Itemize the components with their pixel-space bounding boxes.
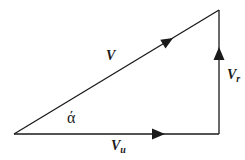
vector-vr-arrowhead	[214, 47, 225, 60]
vector-v-arrowhead	[160, 34, 175, 49]
label-vr: Vr	[227, 67, 240, 84]
label-vu: Vu	[111, 138, 126, 155]
vector-v-line	[14, 10, 219, 134]
label-alpha: ά	[67, 109, 76, 126]
label-vu-sub: u	[120, 144, 126, 155]
velocity-triangle-diagram: V ά Vu Vr	[0, 0, 245, 160]
label-v: V	[106, 48, 117, 63]
label-vr-sub: r	[236, 73, 240, 84]
vector-vu-arrowhead	[152, 129, 165, 140]
